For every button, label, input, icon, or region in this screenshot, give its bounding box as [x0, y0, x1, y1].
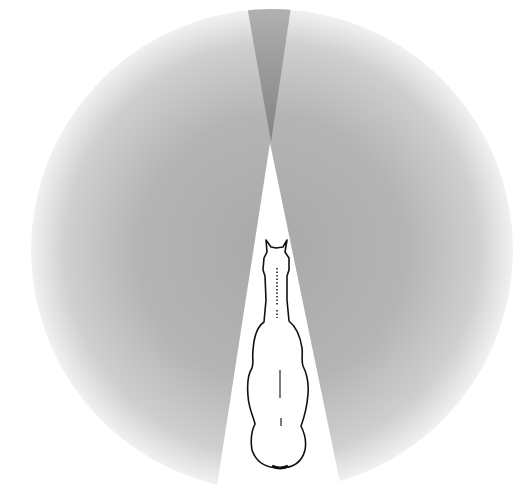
vision-field-diagram: [0, 0, 522, 492]
